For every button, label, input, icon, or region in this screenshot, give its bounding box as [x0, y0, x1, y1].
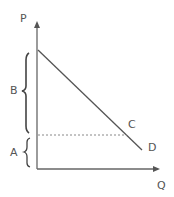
demand-diagram: [0, 0, 174, 197]
point-label-d: D: [148, 142, 156, 153]
y-axis-label: P: [20, 13, 27, 24]
point-label-c: C: [128, 119, 136, 130]
x-axis-label: Q: [157, 180, 166, 191]
bracket-label-b: B: [10, 85, 18, 96]
brace-b-icon: [22, 53, 29, 133]
bracket-label-a: A: [10, 147, 18, 158]
brace-a-icon: [24, 138, 30, 167]
y-axis-arrow-icon: [34, 21, 40, 28]
x-axis-arrow-icon: [153, 166, 160, 172]
